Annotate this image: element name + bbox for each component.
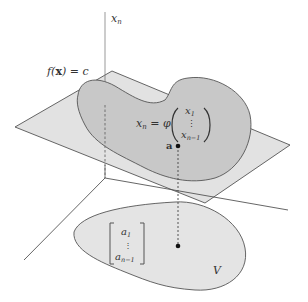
svg-text:xn = φ: xn = φ (136, 117, 171, 131)
point-a (176, 144, 181, 149)
svg-text:⋮: ⋮ (124, 241, 132, 250)
point-a-projection (176, 244, 181, 249)
svg-text:⋮: ⋮ (187, 119, 196, 129)
point-a-label: a (166, 140, 173, 151)
region-V-label: V (213, 264, 222, 277)
level-set-label: f(x) = c (46, 65, 89, 78)
level-set-diagram: xn f(x) = c xn = φ x1 ⋮ xn−1 a a1 ⋮ an−1… (0, 0, 308, 302)
axis-label-xn: xn (111, 12, 122, 26)
